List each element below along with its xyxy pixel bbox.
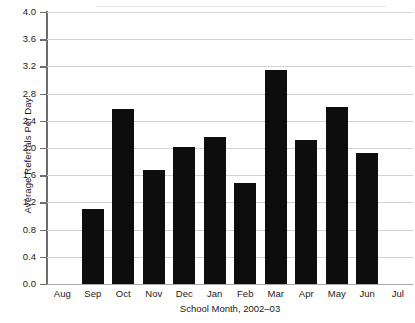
bar-mar[interactable] <box>265 70 287 284</box>
y-axis-tick-label: 3.2 <box>8 61 36 71</box>
gridline <box>47 148 413 149</box>
y-axis-tick-mark <box>40 66 47 67</box>
gridline <box>47 94 413 95</box>
y-axis-tick-mark <box>40 94 47 95</box>
y-axis-tick-label: 0.4 <box>8 252 36 262</box>
x-axis-tick-label-may: May <box>322 288 353 299</box>
x-axis-tick-label-jun: Jun <box>352 288 383 299</box>
y-axis-tick-mark <box>40 148 47 149</box>
y-axis-tick-label: 2.4 <box>8 116 36 126</box>
x-axis-tick-label-jul: Jul <box>383 288 414 299</box>
bar-feb[interactable] <box>234 183 256 284</box>
x-axis-tick-label-apr: Apr <box>291 288 322 299</box>
x-axis-tick-label-oct: Oct <box>108 288 139 299</box>
y-axis-tick-label: 0.8 <box>8 225 36 235</box>
x-axis-title: School Month, 2002–03 <box>47 303 413 314</box>
y-axis-tick-label: 1.6 <box>8 170 36 180</box>
x-axis-tick-label-dec: Dec <box>169 288 200 299</box>
y-axis-tick-mark <box>40 175 47 176</box>
y-axis-tick-mark <box>40 202 47 203</box>
x-axis-tick-label-feb: Feb <box>230 288 261 299</box>
plot-area <box>47 12 413 284</box>
x-axis-tick-label-mar: Mar <box>261 288 292 299</box>
gridline <box>47 12 413 13</box>
y-axis-tick-label: 2.8 <box>8 89 36 99</box>
bar-may[interactable] <box>326 107 348 284</box>
y-axis-tick-label: 3.6 <box>8 34 36 44</box>
bar-sep[interactable] <box>82 209 104 284</box>
y-axis-tick-label: 0.0 <box>8 279 36 289</box>
x-axis-tick-label-jan: Jan <box>200 288 231 299</box>
y-axis-tick-mark <box>40 257 47 258</box>
y-axis-tick-mark <box>40 39 47 40</box>
scan-artifact-line <box>96 6 386 7</box>
y-axis-tick-labels: 4.03.63.22.82.42.01.61.20.80.40.0 <box>0 0 36 323</box>
bar-chart: Average Referrals Per Day 4.03.63.22.82.… <box>0 0 415 323</box>
x-axis-tick-label-sep: Sep <box>78 288 109 299</box>
gridline <box>47 284 413 285</box>
y-axis-tick-label: 4.0 <box>8 7 36 17</box>
bar-oct[interactable] <box>112 109 134 284</box>
y-axis-tick-label: 1.2 <box>8 197 36 207</box>
x-axis-tick-label-aug: Aug <box>47 288 78 299</box>
x-axis-tick-label-nov: Nov <box>139 288 170 299</box>
y-axis-tick-mark <box>40 284 47 285</box>
bar-dec[interactable] <box>173 147 195 284</box>
y-axis-tick-mark <box>40 230 47 231</box>
y-axis-tick-mark <box>40 121 47 122</box>
bar-jan[interactable] <box>204 137 226 284</box>
bar-nov[interactable] <box>143 170 165 284</box>
x-axis-tick-labels: AugSepOctNovDecJanFebMarAprMayJunJul <box>47 288 413 302</box>
y-axis-tick-label: 2.0 <box>8 143 36 153</box>
gridline <box>47 66 413 67</box>
gridline <box>47 39 413 40</box>
bar-apr[interactable] <box>295 140 317 284</box>
bar-jun[interactable] <box>356 153 378 284</box>
y-axis-tick-mark <box>40 12 47 13</box>
gridline <box>47 121 413 122</box>
